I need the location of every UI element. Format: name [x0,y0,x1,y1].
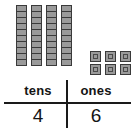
rod-unit-cell [46,59,57,66]
column-header-ones: ones [68,82,124,100]
tens-rod [61,5,72,66]
rod-unit-cell [31,59,42,66]
ones-cubes-group [90,51,131,75]
column-header-tens: tens [10,82,66,100]
value-tens-digit: 4 [10,104,66,128]
table-value-row: 4 6 [0,104,135,130]
ones-cube [120,64,131,75]
tens-rods-group [16,5,72,66]
tens-rod [31,5,42,66]
ones-cube [105,64,116,75]
ones-cube [120,51,131,62]
ones-cube [90,51,101,62]
base-ten-blocks-area [0,0,135,80]
value-ones-digit: 6 [68,104,124,128]
tens-rod [16,5,27,66]
ones-cube [90,64,101,75]
rod-unit-cell [61,59,72,66]
ones-cube [105,51,116,62]
place-value-diagram: tens ones 4 6 [0,0,135,131]
rod-unit-cell [16,59,27,66]
tens-rod [46,5,57,66]
place-value-table: tens ones 4 6 [0,80,135,131]
